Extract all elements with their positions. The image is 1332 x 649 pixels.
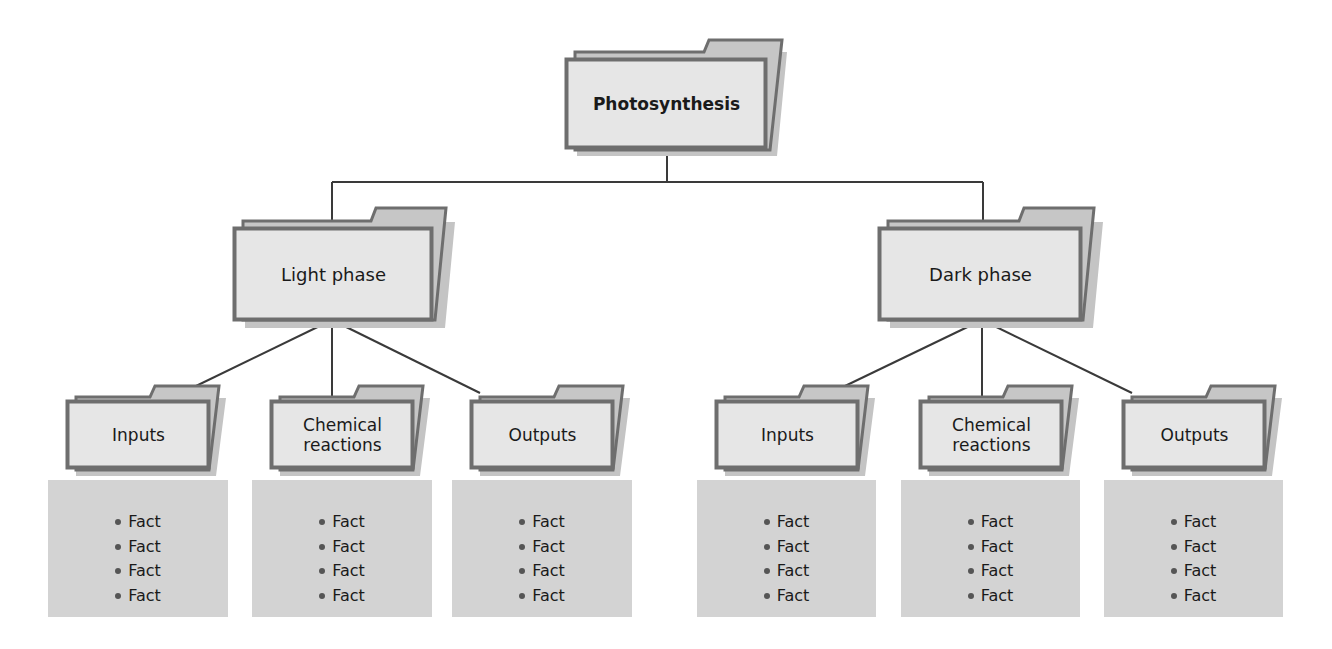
bullet-icon xyxy=(764,568,770,574)
bullet-icon xyxy=(1171,568,1177,574)
bullet-icon xyxy=(319,593,325,599)
facts-panel-light-chemical-reactions: Fact Fact Fact Fact xyxy=(252,480,432,617)
fact-item: Fact xyxy=(115,559,161,584)
bullet-icon xyxy=(968,568,974,574)
fact-item: Fact xyxy=(319,535,365,560)
branch-label: Light phase xyxy=(237,232,430,318)
bullet-icon xyxy=(519,568,525,574)
fact-item: Fact xyxy=(115,535,161,560)
bullet-icon xyxy=(519,519,525,525)
leaf-node-light-outputs: Outputs xyxy=(470,384,634,476)
bullet-icon xyxy=(1171,519,1177,525)
fact-item: Fact xyxy=(968,510,1014,535)
fact-item: Fact xyxy=(319,584,365,609)
bullet-icon xyxy=(764,593,770,599)
fact-item: Fact xyxy=(764,559,810,584)
facts-panel-dark-chemical-reactions: Fact Fact Fact Fact xyxy=(901,480,1080,617)
leaf-label: Outputs xyxy=(474,404,611,466)
fact-item: Fact xyxy=(519,535,565,560)
fact-item: Fact xyxy=(519,584,565,609)
fact-item: Fact xyxy=(764,535,810,560)
facts-panel-light-outputs: Fact Fact Fact Fact xyxy=(452,480,632,617)
facts-panel-dark-outputs: Fact Fact Fact Fact xyxy=(1104,480,1283,617)
bullet-icon xyxy=(968,593,974,599)
branch-label: Dark phase xyxy=(882,232,1079,318)
bullet-icon xyxy=(319,519,325,525)
fact-item: Fact xyxy=(519,559,565,584)
bullet-icon xyxy=(319,544,325,550)
fact-item: Fact xyxy=(764,584,810,609)
bullet-icon xyxy=(115,519,121,525)
concept-map: Photosynthesis Light phase Dark phase Fa… xyxy=(0,0,1332,649)
fact-item: Fact xyxy=(764,510,810,535)
bullet-icon xyxy=(319,568,325,574)
bullet-icon xyxy=(1171,544,1177,550)
fact-item: Fact xyxy=(115,510,161,535)
branch-node-dark-phase: Dark phase xyxy=(878,206,1106,328)
fact-item: Fact xyxy=(115,584,161,609)
root-label: Photosynthesis xyxy=(569,62,764,146)
facts-panel-light-inputs: Fact Fact Fact Fact xyxy=(48,480,228,617)
bullet-icon xyxy=(968,519,974,525)
leaf-label: Chemical reactions xyxy=(274,404,411,466)
fact-item: Fact xyxy=(1171,559,1217,584)
leaf-node-dark-chemical-reactions: Chemical reactions xyxy=(919,384,1083,476)
fact-item: Fact xyxy=(968,559,1014,584)
leaf-node-dark-inputs: Inputs xyxy=(715,384,879,476)
bullet-icon xyxy=(519,593,525,599)
root-node-photosynthesis: Photosynthesis xyxy=(565,38,790,156)
fact-item: Fact xyxy=(319,559,365,584)
leaf-label: Inputs xyxy=(70,404,207,466)
branch-node-light-phase: Light phase xyxy=(233,206,458,328)
bullet-icon xyxy=(764,544,770,550)
bullet-icon xyxy=(115,593,121,599)
leaf-node-light-chemical-reactions: Chemical reactions xyxy=(270,384,434,476)
bullet-icon xyxy=(968,544,974,550)
bullet-icon xyxy=(764,519,770,525)
bullet-icon xyxy=(519,544,525,550)
bullet-icon xyxy=(115,544,121,550)
bullet-icon xyxy=(1171,593,1177,599)
leaf-label: Chemical reactions xyxy=(923,404,1060,466)
leaf-label: Outputs xyxy=(1126,404,1263,466)
fact-item: Fact xyxy=(968,584,1014,609)
leaf-node-light-inputs: Inputs xyxy=(66,384,230,476)
leaf-node-dark-outputs: Outputs xyxy=(1122,384,1286,476)
fact-item: Fact xyxy=(1171,535,1217,560)
bullet-icon xyxy=(115,568,121,574)
fact-item: Fact xyxy=(1171,510,1217,535)
facts-panel-dark-inputs: Fact Fact Fact Fact xyxy=(697,480,876,617)
fact-item: Fact xyxy=(319,510,365,535)
fact-item: Fact xyxy=(519,510,565,535)
leaf-label: Inputs xyxy=(719,404,856,466)
fact-item: Fact xyxy=(968,535,1014,560)
fact-item: Fact xyxy=(1171,584,1217,609)
